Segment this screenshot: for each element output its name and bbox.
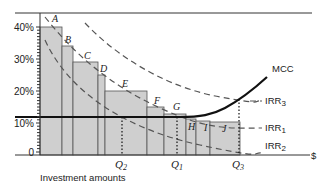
- investment-chart: A B C D E F G H I J 40% 30% 20% 10% 0 MC…: [0, 0, 325, 187]
- bar-G: [164, 114, 186, 155]
- bar-F: [147, 107, 164, 155]
- dollar-axis-label: $: [311, 150, 317, 161]
- y-tick-30: 30%: [14, 54, 34, 65]
- svg-text:F: F: [153, 95, 161, 106]
- bar-E: [105, 91, 147, 155]
- y-tick-20: 20%: [14, 86, 34, 97]
- irr2-label: IRR2: [265, 140, 286, 153]
- bar-A: [40, 27, 62, 155]
- bars: [40, 27, 240, 155]
- y-tick-0: 0: [28, 147, 34, 158]
- svg-text:H: H: [187, 121, 196, 132]
- svg-text:C: C: [84, 50, 91, 61]
- irr3-curve: [85, 23, 262, 102]
- y-tick-10: 10%: [14, 118, 34, 129]
- q3-label: Q3: [232, 158, 244, 172]
- bar-D: [98, 75, 105, 155]
- mcc-label: MCC: [272, 63, 294, 74]
- bar-C: [73, 62, 98, 155]
- svg-text:A: A: [51, 13, 59, 24]
- irr1-label: IRR1: [265, 122, 286, 135]
- bar-B: [62, 46, 73, 155]
- svg-text:G: G: [173, 101, 180, 112]
- svg-text:J: J: [222, 123, 227, 134]
- bar-I: [196, 121, 210, 155]
- q1-label: Q1: [171, 158, 183, 172]
- irr3-label: IRR3: [265, 95, 286, 108]
- svg-text:D: D: [99, 63, 108, 74]
- q2-label: Q2: [115, 158, 127, 172]
- y-ticks: [36, 27, 40, 152]
- x-axis-title: Investment amounts: [40, 172, 126, 183]
- y-tick-40: 40%: [14, 22, 34, 33]
